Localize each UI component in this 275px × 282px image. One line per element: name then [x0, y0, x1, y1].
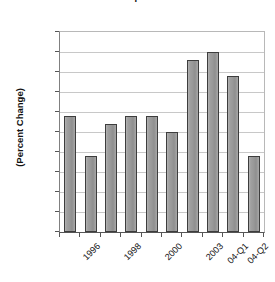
x-axis-tick-mark [59, 232, 60, 237]
x-axis-tick-mark [161, 232, 162, 237]
plot-area [59, 31, 265, 233]
bar [85, 156, 97, 232]
gridline [60, 52, 264, 53]
bar [105, 124, 117, 232]
x-axis-tick-mark [222, 232, 223, 237]
x-axis-tick-mark [243, 232, 244, 237]
x-axis-tick-mark [202, 232, 203, 237]
x-axis-tick-label: 1996 [81, 241, 102, 262]
x-axis-tick-label: 04-Q1 [225, 241, 250, 266]
x-axis-tick-mark [100, 232, 101, 237]
bar [125, 116, 137, 232]
x-axis-tick-mark [79, 232, 80, 237]
x-axis-tick-label: 2003 [203, 241, 224, 262]
chart-title: p [0, 0, 275, 2]
gridline [60, 72, 264, 73]
x-axis-tick-label: 2000 [163, 241, 184, 262]
bar [166, 132, 178, 232]
x-axis-tick-mark [120, 232, 121, 237]
x-axis-tick-mark [263, 232, 264, 237]
x-axis-tick-label: 04-Q2 [246, 241, 271, 266]
bar-chart-figure: p (Percent Change) 5.0%4.5%4.0%3.5%3.0%2… [0, 0, 275, 282]
bar [187, 60, 199, 232]
bar [146, 116, 158, 232]
x-axis-tick-mark [181, 232, 182, 237]
x-axis-tick-mark [141, 232, 142, 237]
y-axis-title: (Percent Change) [14, 53, 25, 203]
bar [207, 52, 219, 232]
bar [64, 116, 76, 232]
bar [227, 76, 239, 232]
bar [248, 156, 260, 232]
x-axis-tick-label: 1998 [122, 241, 143, 262]
